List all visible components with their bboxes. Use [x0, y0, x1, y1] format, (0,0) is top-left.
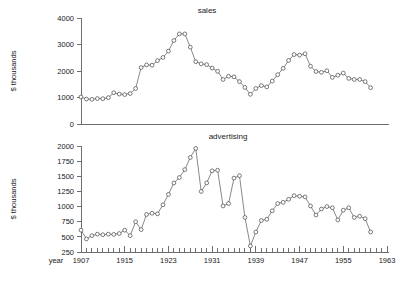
data-point: [183, 32, 187, 36]
data-point: [303, 195, 307, 199]
data-point: [309, 204, 313, 208]
data-point: [352, 78, 356, 82]
data-point: [238, 174, 242, 178]
data-point: [123, 93, 127, 97]
data-point: [309, 64, 313, 68]
data-point: [330, 75, 334, 79]
x-axis-tick-label: 1947: [291, 256, 308, 265]
data-point: [276, 73, 280, 77]
data-point: [134, 87, 138, 91]
data-point: [210, 66, 214, 70]
data-point: [106, 96, 110, 100]
advertising-chart-svg: advertising25050075010001250150017502000…: [0, 126, 409, 283]
y-axis-tick-label: 1500: [57, 172, 74, 181]
data-point: [139, 66, 143, 70]
data-point: [232, 176, 236, 180]
data-point: [123, 228, 127, 232]
data-point: [352, 216, 356, 220]
data-point: [243, 216, 247, 220]
data-point: [145, 213, 149, 217]
data-point: [221, 204, 225, 208]
data-point: [199, 190, 203, 194]
data-point: [134, 220, 138, 224]
data-point: [150, 211, 154, 215]
data-point: [177, 32, 181, 36]
data-point: [341, 208, 345, 212]
data-point: [167, 193, 171, 197]
data-point: [314, 70, 318, 74]
y-axis-tick-label: 2000: [57, 142, 74, 151]
data-point: [314, 213, 318, 217]
data-point: [320, 70, 324, 74]
data-point: [199, 62, 203, 66]
data-point: [248, 92, 252, 96]
data-point: [172, 39, 176, 43]
data-point: [238, 80, 242, 84]
data-point: [248, 244, 252, 248]
data-point: [139, 228, 143, 232]
x-axis-tick-label: 1939: [248, 256, 265, 265]
data-point: [79, 95, 83, 99]
data-point: [172, 181, 176, 185]
data-point: [325, 69, 329, 73]
x-axis-title: year: [49, 256, 64, 265]
data-point: [330, 206, 334, 210]
data-point: [112, 91, 116, 95]
x-axis-tick-label: 1963: [379, 256, 396, 265]
y-axis-tick-label: 4000: [57, 14, 74, 23]
data-point: [298, 194, 302, 198]
y-axis-tick-label: 2000: [57, 67, 74, 76]
data-point: [232, 75, 236, 79]
data-point: [79, 228, 83, 232]
data-point: [194, 147, 198, 151]
y-axis-title: $ thousands: [9, 178, 18, 219]
data-point: [281, 200, 285, 204]
data-point: [145, 63, 149, 67]
y-axis-tick-label: 500: [61, 233, 74, 242]
chart-title: advertising: [209, 132, 248, 141]
y-axis-tick-label: 1000: [57, 93, 74, 102]
data-point: [221, 78, 225, 82]
data-point: [90, 97, 94, 101]
data-point: [95, 97, 99, 101]
chart-title: sales: [198, 6, 217, 15]
chart-panel-sales: sales01000200030004000$ thousands: [0, 0, 409, 135]
data-point: [177, 176, 181, 180]
data-point: [90, 234, 94, 238]
data-point: [259, 84, 263, 88]
data-point: [85, 237, 89, 241]
data-point: [270, 79, 274, 83]
data-point: [254, 87, 258, 91]
data-series-line: [81, 34, 371, 99]
x-axis-tick-label: 1907: [73, 256, 90, 265]
data-point: [243, 86, 247, 90]
data-point: [347, 77, 351, 81]
data-point: [150, 63, 154, 67]
data-point: [188, 45, 192, 49]
data-point: [106, 232, 110, 236]
data-point: [161, 203, 165, 207]
data-point: [320, 207, 324, 211]
y-axis-title: $ thousands: [9, 50, 18, 91]
data-point: [369, 86, 373, 90]
data-point: [358, 78, 362, 82]
data-point: [227, 74, 231, 78]
data-point: [347, 206, 351, 210]
data-point: [298, 53, 302, 57]
x-axis-tick-label: 1931: [204, 256, 221, 265]
data-point: [194, 60, 198, 64]
data-point: [363, 80, 367, 84]
data-point: [95, 232, 99, 236]
y-axis-tick-label: 1000: [57, 202, 74, 211]
data-point: [188, 156, 192, 160]
x-axis-tick-label: 1915: [116, 256, 133, 265]
data-point: [156, 212, 160, 216]
data-point: [117, 92, 121, 96]
data-point: [265, 217, 269, 221]
data-point: [358, 214, 362, 218]
data-point: [85, 97, 89, 101]
data-point: [128, 92, 132, 96]
data-point: [287, 59, 291, 63]
sales-chart-svg: sales01000200030004000$ thousands: [0, 0, 409, 135]
chart-panel-advertising: advertising25050075010001250150017502000…: [0, 126, 409, 283]
